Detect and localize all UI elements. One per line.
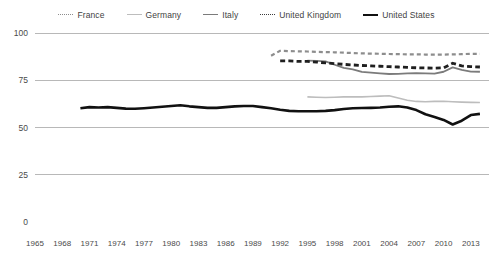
- series-line-united-states: [80, 105, 480, 124]
- x-tick-1998: 1998: [326, 239, 344, 248]
- plot-area: 0255075100 19651968197119741977198019831…: [0, 0, 493, 260]
- x-tick-1971: 1971: [81, 239, 99, 248]
- series-line-united-kingdom: [280, 61, 480, 68]
- x-tick-1974: 1974: [108, 239, 126, 248]
- x-tick-2007: 2007: [407, 239, 425, 248]
- y-tick-75: 75: [19, 75, 29, 85]
- series-line-france: [271, 51, 480, 56]
- x-tick-2004: 2004: [380, 239, 398, 248]
- y-axis-tick-labels: 0255075100: [14, 28, 28, 227]
- x-axis-tick-labels: 1965196819711974197719801983198619891992…: [26, 239, 480, 248]
- x-tick-1983: 1983: [190, 239, 208, 248]
- x-tick-1986: 1986: [217, 239, 235, 248]
- x-tick-1989: 1989: [244, 239, 262, 248]
- x-tick-2010: 2010: [435, 239, 453, 248]
- x-tick-1965: 1965: [26, 239, 44, 248]
- line-chart: France Germany Italy United Kingdom Unit…: [0, 0, 493, 260]
- x-tick-2013: 2013: [462, 239, 480, 248]
- x-tick-1992: 1992: [271, 239, 289, 248]
- x-tick-1977: 1977: [135, 239, 153, 248]
- x-tick-1980: 1980: [162, 239, 180, 248]
- gridlines: [35, 33, 489, 175]
- y-tick-25: 25: [19, 170, 29, 180]
- series-line-germany: [307, 96, 480, 103]
- plot-svg: 0255075100 19651968197119741977198019831…: [0, 0, 493, 260]
- y-tick-0: 0: [23, 217, 28, 227]
- x-tick-1995: 1995: [299, 239, 317, 248]
- x-tick-1968: 1968: [53, 239, 71, 248]
- y-tick-100: 100: [14, 28, 28, 38]
- data-series-group: [80, 51, 480, 125]
- y-tick-50: 50: [19, 123, 29, 133]
- x-tick-2001: 2001: [353, 239, 371, 248]
